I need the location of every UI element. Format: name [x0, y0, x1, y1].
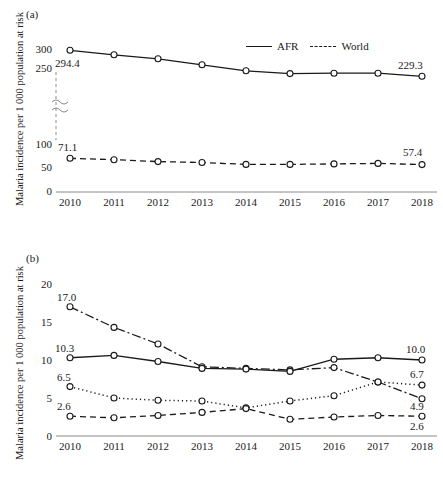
panel-a-xtick-2016: 2016: [312, 196, 356, 208]
panel-b-xtick-2011: 2011: [92, 440, 136, 452]
panel-b-label-sear-start: 17.0: [57, 291, 76, 303]
panel-b-label-emr-end: 10.0: [406, 343, 425, 355]
legend-label-world: World: [341, 40, 368, 52]
panel-a-legend: AFR World: [246, 40, 369, 52]
panel-a-plot: [0, 0, 443, 248]
panel-b-label-sear-end: 4.9: [410, 400, 424, 412]
panel-b-series-sear-markers: [67, 304, 425, 402]
panel-a-series-afr-markers: [67, 47, 425, 79]
panel-a-label-afr-end: 229.3: [398, 59, 423, 71]
panel-b-label-wpr-end: 2.6: [410, 420, 424, 432]
panel-a-xtick-2014: 2014: [224, 196, 268, 208]
panel-b-label-emr-start: 10.3: [55, 342, 74, 354]
panel-a-xtick-2018: 2018: [400, 196, 443, 208]
panel-a: (a) Malaria incidence per 1 000 populati…: [0, 0, 443, 248]
panel-a-xtick-2015: 2015: [268, 196, 312, 208]
panel-b-xtick-2017: 2017: [356, 440, 400, 452]
legend-key-dashed-icon: [310, 46, 336, 47]
panel-b-series-wpr-markers: [67, 406, 425, 423]
legend-label-afr: AFR: [277, 40, 298, 52]
panel-a-label-afr-start: 294.4: [55, 57, 80, 69]
panel-a-series-world-markers: [67, 155, 425, 167]
panel-a-xtick-2010: 2010: [48, 196, 92, 208]
panel-b-label-wpr-start: 2.6: [57, 400, 71, 412]
legend-item-afr[interactable]: AFR: [246, 40, 298, 52]
panel-b-series-sear-line: [70, 307, 422, 399]
panel-b-label-amr-end: 6.7: [410, 368, 424, 380]
panel-b-xtick-2015: 2015: [268, 440, 312, 452]
panel-b-xtick-2010: 2010: [48, 440, 92, 452]
panel-b-xtick-2012: 2012: [136, 440, 180, 452]
legend-item-world[interactable]: World: [310, 40, 368, 52]
panel-a-xtick-2011: 2011: [92, 196, 136, 208]
panel-b-label-amr-start: 6.5: [57, 371, 71, 383]
panel-a-label-world-end: 57.4: [403, 146, 422, 158]
legend-key-solid-icon: [246, 46, 272, 47]
panel-a-xtick-2012: 2012: [136, 196, 180, 208]
panel-b-xtick-2016: 2016: [312, 440, 356, 452]
panel-a-xtick-2017: 2017: [356, 196, 400, 208]
panel-a-xtick-2013: 2013: [180, 196, 224, 208]
panel-b: (b) Malaria incidence per 1 000 populati…: [0, 248, 443, 487]
panel-b-xtick-2014: 2014: [224, 440, 268, 452]
panel-b-series-amr-line: [70, 382, 422, 408]
panel-b-xtick-2013: 2013: [180, 440, 224, 452]
panel-b-xtick-2018: 2018: [400, 440, 443, 452]
malaria-incidence-figure: (a) Malaria incidence per 1 000 populati…: [0, 0, 443, 487]
panel-a-label-world-start: 71.1: [58, 141, 77, 153]
panel-a-axis-break-icon: [52, 72, 68, 140]
